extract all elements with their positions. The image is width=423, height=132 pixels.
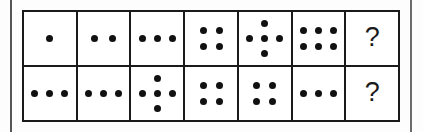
dot	[300, 43, 307, 50]
dot-cluster-3	[134, 19, 180, 59]
dot-cluster-4	[242, 74, 288, 114]
dot	[91, 35, 98, 42]
dot-cluster-1	[27, 19, 73, 59]
grid-cell-r2c6[interactable]	[293, 67, 347, 120]
grid-cell-r1c7[interactable]: ?	[346, 12, 398, 65]
dot	[169, 90, 176, 97]
dot	[169, 35, 176, 42]
dot	[31, 90, 38, 97]
dot	[216, 27, 223, 34]
dot-cluster-3	[27, 74, 73, 114]
dot	[115, 90, 122, 97]
dot	[269, 82, 276, 89]
dot	[253, 82, 260, 89]
dot	[216, 98, 223, 105]
dot	[139, 35, 146, 42]
dot	[261, 50, 268, 57]
grid-cell-r1c6[interactable]	[293, 12, 347, 65]
grid-cell-r1c2[interactable]	[78, 12, 132, 65]
page-margin-rule-left	[10, 0, 12, 132]
dot-cluster-3	[295, 74, 341, 114]
grid-cell-r1c3[interactable]	[131, 12, 185, 65]
page-margin-rule-right	[410, 0, 412, 132]
dot-pattern-grid: ??	[22, 10, 400, 122]
grid-cell-r2c1[interactable]	[24, 67, 78, 120]
dot	[46, 35, 53, 42]
dot	[315, 43, 322, 50]
dot	[154, 75, 161, 82]
dot	[216, 82, 223, 89]
dot	[85, 90, 92, 97]
dot	[109, 35, 116, 42]
dot	[61, 90, 68, 97]
grid-cell-r2c2[interactable]	[78, 67, 132, 120]
dot	[154, 105, 161, 112]
dot-cluster-6	[295, 19, 341, 59]
dot	[200, 27, 207, 34]
question-mark-icon: ?	[365, 24, 380, 51]
dot	[269, 98, 276, 105]
grid-cell-r2c7[interactable]: ?	[346, 67, 398, 120]
dot	[330, 27, 337, 34]
dot	[253, 98, 260, 105]
dot	[315, 27, 322, 34]
dot	[300, 90, 307, 97]
dot	[139, 90, 146, 97]
dot-cluster-4	[188, 74, 234, 114]
dot-cluster-3	[81, 74, 127, 114]
dot-cluster-5	[242, 19, 288, 59]
grid-cell-r2c5[interactable]	[239, 67, 293, 120]
grid-cell-r2c4[interactable]	[185, 67, 239, 120]
dot-cluster-2	[81, 19, 127, 59]
row-top: ?	[24, 12, 398, 67]
dot	[200, 98, 207, 105]
dot	[315, 90, 322, 97]
dot-cluster-4	[188, 19, 234, 59]
dot	[100, 90, 107, 97]
question-mark-icon: ?	[365, 79, 380, 106]
dot	[200, 82, 207, 89]
dot	[46, 90, 53, 97]
grid-cell-r1c1[interactable]	[24, 12, 78, 65]
dot	[276, 35, 283, 42]
row-bottom: ?	[24, 67, 398, 120]
dot	[261, 20, 268, 27]
dot	[261, 35, 268, 42]
dot-cluster-5	[134, 74, 180, 114]
grid-cell-r1c4[interactable]	[185, 12, 239, 65]
dot	[216, 43, 223, 50]
dot	[200, 43, 207, 50]
dot	[300, 27, 307, 34]
dot	[330, 43, 337, 50]
grid-cell-r1c5[interactable]	[239, 12, 293, 65]
dot	[330, 90, 337, 97]
dot	[154, 90, 161, 97]
dot	[154, 35, 161, 42]
grid-cell-r2c3[interactable]	[131, 67, 185, 120]
dot	[246, 35, 253, 42]
